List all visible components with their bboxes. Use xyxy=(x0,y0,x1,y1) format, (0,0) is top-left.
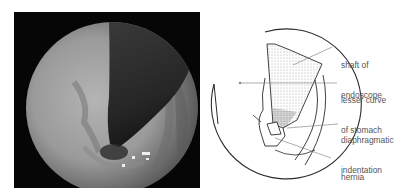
label-line: diaphragmatic xyxy=(341,135,394,145)
labelled-diagram: shaft of endoscope lesser curve of stoma… xyxy=(205,0,410,192)
label-line: lesser curve xyxy=(341,95,386,105)
endoscopic-photo xyxy=(14,12,200,188)
label-hernia: hernia xyxy=(341,152,364,192)
endoscopic-view-image xyxy=(14,12,200,188)
label-line: hernia xyxy=(341,172,364,182)
label-line: shaft of xyxy=(341,60,382,70)
